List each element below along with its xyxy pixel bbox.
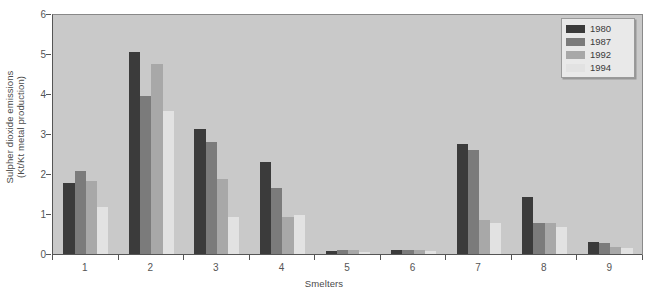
bar bbox=[206, 142, 217, 255]
bar-group bbox=[391, 15, 436, 255]
y-axis-tick-labels: 0123456 bbox=[24, 0, 46, 294]
bar bbox=[479, 220, 490, 255]
bar bbox=[228, 217, 239, 255]
y-tick-label: 3 bbox=[28, 129, 46, 140]
x-tick-label: 1 bbox=[73, 262, 97, 273]
x-tick-label: 9 bbox=[597, 262, 621, 273]
y-tick-mark bbox=[46, 214, 51, 215]
x-tick-label: 8 bbox=[532, 262, 556, 273]
bar bbox=[457, 144, 468, 255]
bar bbox=[522, 197, 533, 255]
legend: 1980 1987 1992 1994 bbox=[561, 18, 635, 78]
bar-group bbox=[63, 15, 108, 255]
legend-item: 1980 bbox=[566, 22, 630, 35]
x-tick-label: 5 bbox=[335, 262, 359, 273]
bars-layer bbox=[53, 15, 643, 255]
x-tick-mark bbox=[314, 255, 315, 260]
y-tick-mark bbox=[46, 254, 51, 255]
y-tick-mark bbox=[46, 54, 51, 55]
legend-label-1994: 1994 bbox=[590, 61, 611, 74]
plot-right-edge bbox=[642, 14, 643, 255]
x-tick-mark bbox=[576, 255, 577, 260]
x-tick-mark bbox=[380, 255, 381, 260]
legend-label-1980: 1980 bbox=[590, 22, 611, 35]
y-axis-title-line1: Sulpher dioxide emissions bbox=[4, 71, 16, 184]
bar bbox=[75, 171, 86, 255]
x-tick-mark bbox=[642, 255, 643, 260]
x-tick-label: 2 bbox=[138, 262, 162, 273]
bar bbox=[271, 188, 282, 255]
y-tick-label: 1 bbox=[28, 209, 46, 220]
x-tick-mark bbox=[183, 255, 184, 260]
bar bbox=[294, 215, 305, 255]
x-tick-mark bbox=[52, 255, 53, 260]
legend-item: 1994 bbox=[566, 61, 630, 74]
bar bbox=[468, 150, 479, 255]
legend-label-1987: 1987 bbox=[590, 35, 611, 48]
y-tick-mark bbox=[46, 94, 51, 95]
legend-item: 1987 bbox=[566, 35, 630, 48]
bar bbox=[86, 181, 97, 255]
bar bbox=[533, 223, 544, 255]
bar bbox=[260, 162, 271, 255]
legend-swatch-1992 bbox=[566, 51, 585, 59]
y-tick-mark bbox=[46, 174, 51, 175]
y-tick-label: 4 bbox=[28, 89, 46, 100]
y-tick-label: 5 bbox=[28, 49, 46, 60]
x-tick-mark bbox=[118, 255, 119, 260]
x-axis-line bbox=[52, 254, 643, 255]
bar bbox=[163, 111, 174, 255]
bar-group bbox=[260, 15, 305, 255]
bar bbox=[556, 227, 567, 255]
x-tick-label: 7 bbox=[466, 262, 490, 273]
legend-swatch-1980 bbox=[566, 25, 585, 33]
x-axis-title: Smelters bbox=[0, 278, 648, 289]
y-tick-label: 2 bbox=[28, 169, 46, 180]
bar bbox=[129, 52, 140, 255]
y-tick-mark bbox=[46, 134, 51, 135]
y-tick-mark bbox=[46, 14, 51, 15]
bar bbox=[63, 183, 74, 255]
bar bbox=[97, 207, 108, 255]
bar bbox=[490, 223, 501, 255]
x-tick-label: 4 bbox=[269, 262, 293, 273]
bar bbox=[194, 129, 205, 255]
bar bbox=[140, 96, 151, 255]
legend-swatch-1987 bbox=[566, 38, 585, 46]
bar-group bbox=[194, 15, 239, 255]
bar-group bbox=[457, 15, 502, 255]
bar-group bbox=[129, 15, 174, 255]
x-tick-label: 6 bbox=[401, 262, 425, 273]
bar bbox=[217, 179, 228, 255]
legend-swatch-1994 bbox=[566, 64, 585, 72]
x-tick-mark bbox=[445, 255, 446, 260]
bar bbox=[545, 223, 556, 255]
y-tick-label: 0 bbox=[28, 249, 46, 260]
bar bbox=[282, 217, 293, 255]
bar-chart: Sulpher dioxide emissions (Kt/Kt metal p… bbox=[0, 0, 648, 294]
x-tick-mark bbox=[249, 255, 250, 260]
x-tick-label: 3 bbox=[204, 262, 228, 273]
plot-area bbox=[52, 14, 643, 255]
legend-item: 1992 bbox=[566, 48, 630, 61]
legend-label-1992: 1992 bbox=[590, 48, 611, 61]
y-tick-label: 6 bbox=[28, 9, 46, 20]
bar-group bbox=[326, 15, 371, 255]
bar bbox=[151, 64, 162, 255]
x-tick-mark bbox=[511, 255, 512, 260]
